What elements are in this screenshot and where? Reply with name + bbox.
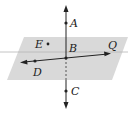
point-B [64,56,67,59]
point-D [33,59,36,62]
point-C [64,89,67,92]
arrow-up-icon [64,5,69,12]
point-E [47,43,50,46]
arrow-down-icon [64,102,69,109]
label-Q: Q [108,39,117,52]
label-D: D [32,66,42,79]
label-C: C [71,85,80,98]
geometry-diagram: A B C D E Q [0,0,128,117]
label-E: E [34,38,43,51]
label-A: A [69,17,78,30]
label-B: B [68,42,77,55]
point-A [64,21,67,24]
